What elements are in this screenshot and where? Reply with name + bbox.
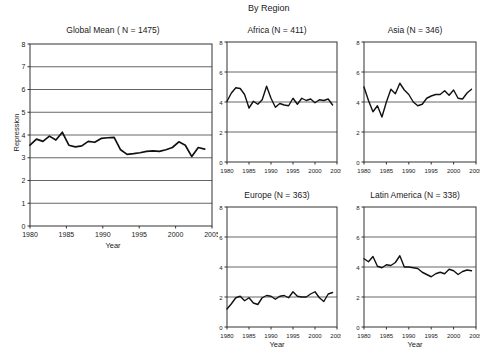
svg-text:2005: 2005 (330, 333, 341, 339)
svg-text:1980: 1980 (220, 168, 234, 174)
panel-europe: Europe (N = 363) 02468198019851990199520… (213, 190, 341, 355)
figure-repression-by-region: By Region Global Mean ( N = 1475) 012345… (0, 0, 487, 359)
svg-text:4: 4 (219, 100, 223, 106)
svg-text:2: 2 (356, 130, 360, 136)
svg-text:8: 8 (219, 40, 223, 46)
svg-text:2005: 2005 (469, 333, 480, 339)
svg-text:1980: 1980 (357, 168, 371, 174)
panel-title-africa: Africa (N = 411) (213, 25, 341, 35)
svg-text:8: 8 (219, 205, 223, 211)
svg-text:1985: 1985 (380, 168, 394, 174)
svg-text:1980: 1980 (357, 333, 371, 339)
svg-text:1985: 1985 (242, 168, 256, 174)
svg-text:5: 5 (22, 109, 26, 116)
svg-text:1995: 1995 (131, 231, 147, 238)
svg-text:8: 8 (356, 205, 360, 211)
svg-text:4: 4 (356, 100, 360, 106)
svg-text:1990: 1990 (402, 168, 416, 174)
svg-text:2005: 2005 (469, 168, 480, 174)
by-region-header: By Region (248, 3, 290, 13)
svg-text:3: 3 (22, 154, 26, 161)
plot-europe: 02468198019851990199520002005 (213, 203, 341, 343)
svg-text:2: 2 (22, 177, 26, 184)
svg-text:1: 1 (22, 200, 26, 207)
svg-text:4: 4 (356, 265, 360, 271)
svg-text:1990: 1990 (264, 168, 278, 174)
axis-label-x-global: Year (8, 241, 218, 250)
svg-text:0: 0 (356, 325, 360, 331)
svg-text:2000: 2000 (447, 168, 461, 174)
svg-text:6: 6 (219, 235, 223, 241)
plot-asia: 02468198019851990199520002005 (350, 38, 480, 178)
panel-title-europe: Europe (N = 363) (213, 190, 341, 200)
axis-label-x-latin: Year (350, 340, 480, 349)
svg-text:2: 2 (219, 130, 223, 136)
panel-title-global: Global Mean ( N = 1475) (8, 25, 218, 35)
plot-latin-america: 02468198019851990199520002005 (350, 203, 480, 343)
panel-africa: Africa (N = 411) 02468198019851990199520… (213, 25, 341, 175)
svg-text:8: 8 (356, 40, 360, 46)
svg-text:2000: 2000 (168, 231, 184, 238)
svg-text:8: 8 (22, 41, 26, 48)
svg-text:1990: 1990 (402, 333, 416, 339)
svg-text:1985: 1985 (380, 333, 394, 339)
svg-text:1995: 1995 (286, 333, 300, 339)
svg-text:0: 0 (22, 223, 26, 230)
panel-title-latin-america: Latin America (N = 338) (350, 190, 480, 200)
svg-text:1990: 1990 (264, 333, 278, 339)
svg-text:2000: 2000 (308, 333, 322, 339)
svg-text:7: 7 (22, 63, 26, 70)
svg-text:4: 4 (22, 132, 26, 139)
svg-text:1980: 1980 (22, 231, 38, 238)
svg-text:1990: 1990 (95, 231, 111, 238)
svg-text:0: 0 (356, 160, 360, 166)
panel-asia: Asia (N = 346) 0246819801985199019952000… (350, 25, 480, 175)
svg-text:6: 6 (22, 86, 26, 93)
axis-label-x-europe: Year (213, 340, 341, 349)
svg-text:1985: 1985 (242, 333, 256, 339)
svg-text:2: 2 (356, 295, 360, 301)
svg-text:1995: 1995 (425, 168, 439, 174)
panel-global-mean: Global Mean ( N = 1475) 0123456781980198… (8, 25, 218, 255)
svg-text:2000: 2000 (308, 168, 322, 174)
svg-text:4: 4 (219, 265, 223, 271)
svg-text:2005: 2005 (330, 168, 341, 174)
svg-text:1995: 1995 (286, 168, 300, 174)
plot-africa: 02468198019851990199520002005 (213, 38, 341, 178)
svg-text:1995: 1995 (425, 333, 439, 339)
svg-text:6: 6 (219, 70, 223, 76)
svg-text:2000: 2000 (447, 333, 461, 339)
svg-text:0: 0 (219, 325, 223, 331)
axis-label-y-global: Repression (12, 103, 21, 163)
svg-text:0: 0 (219, 160, 223, 166)
svg-text:1985: 1985 (59, 231, 75, 238)
svg-text:2: 2 (219, 295, 223, 301)
svg-text:6: 6 (356, 235, 360, 241)
svg-text:6: 6 (356, 70, 360, 76)
panel-latin-america: Latin America (N = 338) 0246819801985199… (350, 190, 480, 355)
plot-global-mean: 012345678198019851990199520002005 (8, 39, 218, 244)
panel-title-asia: Asia (N = 346) (350, 25, 480, 35)
svg-text:1980: 1980 (220, 333, 234, 339)
